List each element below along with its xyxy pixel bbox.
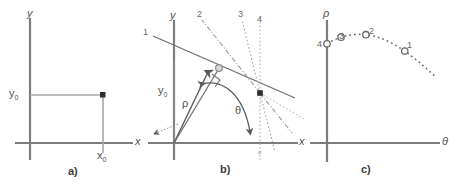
panel-c-caption: c) [361, 164, 371, 175]
panel-b-x-axis-label: x [299, 136, 305, 147]
panel-b-y-axis-label: y [170, 10, 176, 21]
hough-transform-figure: y x y0 x0 a) [0, 0, 464, 188]
panel-b-foot-marker [216, 65, 223, 72]
panel-b-rho-label: ρ [182, 98, 188, 109]
panel-b-origin-to-foot [174, 70, 218, 143]
panel-a-point-marker [100, 92, 106, 98]
panel-b-rho-arrow [174, 72, 208, 143]
panel-b-origin-label: o [258, 149, 261, 155]
panel-b-point-marker [257, 90, 263, 96]
panel-c-hough-space: ρ θ 4 3 2 1 c) [305, 0, 464, 188]
panel-b-line-label-2: 2 [197, 10, 202, 19]
panel-b-line-label-3: 3 [238, 10, 243, 19]
panel-b-line-label-4: 4 [257, 15, 262, 24]
panel-c-graphic [305, 0, 464, 188]
panel-b-y0-label: y0 [158, 85, 167, 98]
panel-a-cartesian-point: y x y0 x0 a) [0, 0, 152, 188]
panel-b-line-label-1: 1 [143, 28, 148, 37]
panel-b-polar-lines: y x 1 2 3 4 y0 ρ θ o b) [140, 0, 310, 188]
panel-a-y-axis-label: y [27, 8, 33, 19]
panel-b-right-angle-marker [212, 74, 220, 87]
panel-a-x0-subscript: 0 [103, 156, 107, 163]
panel-c-point-4 [324, 41, 330, 47]
panel-b-theta-arc [202, 83, 250, 132]
panel-c-point-label-3: 3 [339, 32, 344, 41]
panel-b-caption: b) [220, 164, 230, 175]
panel-a-y0-label: y0 [9, 88, 18, 101]
panel-b-theta-label: θ [235, 105, 241, 116]
panel-c-rho-axis-label: ρ [323, 8, 329, 19]
panel-c-point-label-2: 2 [369, 27, 374, 36]
panel-a-x0-label: x0 [97, 150, 106, 163]
panel-a-caption: a) [68, 166, 78, 177]
panel-a-graphic [0, 0, 152, 188]
panel-c-theta-axis-label: θ [442, 136, 448, 147]
panel-b-y0-subscript: 0 [164, 91, 168, 98]
panel-c-point-label-1: 1 [407, 41, 412, 50]
panel-b-ray-extra [260, 93, 306, 120]
panel-c-point-label-4: 4 [317, 40, 322, 49]
panel-a-y0-subscript: 0 [15, 94, 19, 101]
